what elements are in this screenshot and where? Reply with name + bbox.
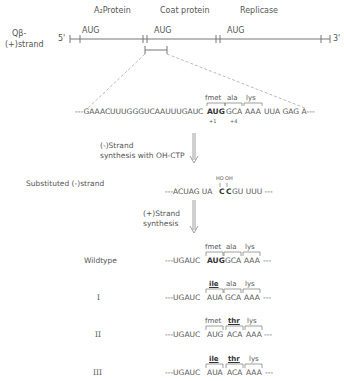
variant-suffix: ---	[263, 257, 271, 265]
step1-line1: (-)Strand	[100, 142, 133, 150]
substituted-strand-label: Substituted (-)strand	[26, 180, 104, 188]
ho-label: HO	[216, 176, 224, 181]
sequence-suffix: UUA GAG A---	[264, 108, 315, 116]
gene-label-a2: A₂Protein	[94, 7, 131, 15]
step2-line2: synthesis	[143, 220, 178, 228]
aa-label: ala	[227, 95, 238, 102]
aa-label: lys	[246, 95, 256, 102]
step2-line1: (+)Strand	[143, 210, 180, 218]
start-codon-coat: AUG	[154, 27, 172, 35]
codon: AUG	[207, 331, 223, 339]
aa-label: lys	[245, 244, 255, 251]
codon: AAA	[245, 108, 261, 116]
codon: AAA	[244, 294, 260, 302]
oh-label: OH	[225, 176, 233, 181]
variant-label-wildtype: Wildtype	[84, 257, 117, 265]
codon-start: AUG	[207, 108, 225, 116]
start-codon-replicase: AUG	[227, 27, 245, 35]
start-codon-a2: AUG	[82, 27, 100, 35]
aa-label-mutated: ile	[209, 281, 219, 288]
aa-label: fmet	[205, 95, 221, 102]
variant-prefix: ---UGAUC	[165, 369, 200, 377]
position-label: +1	[209, 119, 216, 124]
codon-mutated: ACA	[227, 331, 242, 339]
variant-prefix: ---UGAUC	[165, 294, 200, 302]
three-prime-label: 3'	[333, 35, 340, 43]
variant-label-iii: III	[93, 369, 102, 377]
aa-label: lys	[245, 281, 255, 288]
aa-label-mutated: thr	[228, 318, 240, 325]
variant-prefix: ---UGAUC	[165, 257, 200, 265]
aa-label: fmet	[205, 244, 221, 251]
aa-label: lys	[247, 318, 257, 325]
modified-c2: C	[226, 188, 232, 196]
step1-line2: synthesis with OH-CTP	[100, 152, 185, 160]
codon-mutated: AUA	[207, 294, 223, 302]
aa-label: ala	[226, 244, 237, 251]
aa-label-mutated: thr	[228, 356, 240, 363]
aa-label: ala	[226, 281, 237, 288]
variant-suffix: ---	[263, 294, 271, 302]
aa-label: lys	[249, 356, 259, 363]
sequence-prefix: ---GAAACUUUGGGUCAAUUUGAUC	[75, 108, 203, 116]
codon: AUG	[207, 257, 225, 265]
substituted-seq-prefix: ---ACUAG UA	[165, 188, 213, 196]
variant-prefix: ---UGAUC	[165, 331, 200, 339]
five-prime-label: 5'	[58, 35, 65, 43]
codon: GCA	[225, 294, 241, 302]
variant-label-ii: II	[95, 331, 101, 339]
gene-label-replicase: Replicase	[240, 7, 278, 15]
codon: AAA	[244, 257, 260, 265]
gene-label-coat: Coat protein	[160, 7, 210, 15]
genome-label-qbeta: Qβ-	[12, 30, 26, 38]
codon-mutated: AUA	[207, 369, 223, 377]
modified-c1: C	[219, 188, 225, 196]
genome-label-strand: (+)strand	[5, 41, 44, 49]
aa-label: fmet	[205, 318, 221, 325]
variant-label-i: I	[97, 294, 100, 302]
codon: GCA	[226, 108, 242, 116]
codon-mutated: ACA	[227, 369, 242, 377]
codon: AAA	[246, 331, 262, 339]
aa-label-mutated: ile	[209, 356, 219, 363]
variant-suffix: ---	[265, 369, 273, 377]
variant-suffix: ---	[264, 331, 272, 339]
codon: AAA	[246, 369, 262, 377]
position-label: +4	[230, 119, 237, 124]
substituted-seq-suffix: GU UUU ---	[232, 188, 273, 196]
codon: GCA	[225, 257, 241, 265]
